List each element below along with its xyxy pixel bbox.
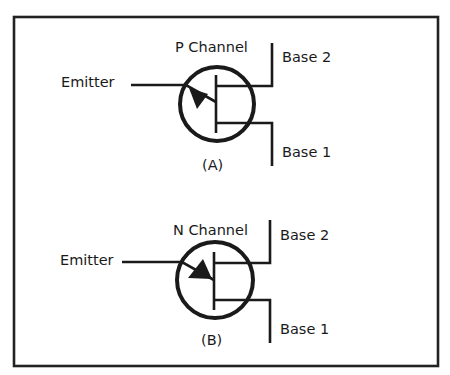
channel-label-b: N Channel [173,222,248,238]
base2-label-a: Base 2 [282,49,331,65]
ujt-symbol-diagram: P Channel Emitter Base 2 Base 1 (A) N Ch… [0,0,450,375]
base2-label-b: Base 2 [280,227,329,243]
emitter-label-b: Emitter [60,252,114,268]
caption-a: (A) [202,157,223,173]
base1-label-a: Base 1 [282,144,331,160]
symbol-n-channel: N Channel Emitter Base 2 Base 1 (B) [60,220,329,348]
emitter-label-a: Emitter [61,74,115,90]
symbol-p-channel: P Channel Emitter Base 2 Base 1 (A) [61,39,331,173]
emitter-arrow-icon-b [188,259,212,279]
caption-b: (B) [201,332,222,348]
base1-label-b: Base 1 [280,321,329,337]
emitter-arrow-icon-a [189,88,208,109]
channel-label-a: P Channel [175,39,248,55]
